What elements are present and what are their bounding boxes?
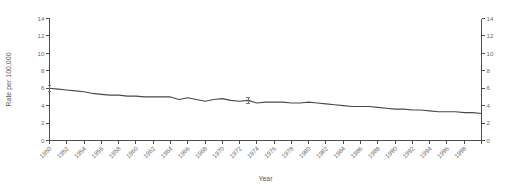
y-tick-label-right: 14 [487,15,494,22]
x-tick-label: 1986 [349,144,364,159]
y-tick-label-left: 4 [41,102,45,109]
x-tick-label: 1978 [280,144,295,159]
x-tick-label: 1984 [332,144,347,159]
x-tick-label: 1982 [315,144,330,159]
x-tick-label: 1964 [159,144,174,159]
x-tick-label: 1954 [73,144,88,159]
y-tick-label-right: 12 [487,32,494,39]
x-tick-label: 1990 [384,144,399,159]
x-tick-label: 1966 [176,144,191,159]
y-tick-label-right: 6 [487,84,491,91]
y-tick-label-right: 2 [487,119,491,126]
x-tick-label: 1992 [401,144,416,159]
y-tick-label-left: 6 [41,84,45,91]
x-tick-label: 1988 [366,144,381,159]
x-tick-label: 1972 [228,144,243,159]
x-axis-title: Year [258,175,273,182]
y-tick-label-left: 14 [38,15,45,22]
x-tick-label: 1958 [107,144,122,159]
x-tick-label: 1950 [38,144,53,159]
y-tick-label-right: 10 [487,50,494,57]
x-tick-label: 1998 [453,144,468,159]
x-tick-label: 1980 [297,144,312,159]
y-axis-title: Rate per 100,000 [5,52,13,106]
y-tick-label-left: 8 [41,67,45,74]
y-tick-label-left: 12 [38,32,45,39]
data-line-rate [50,88,482,113]
x-tick-label: 1970 [211,144,226,159]
x-tick-label: 1994 [418,144,433,159]
y-tick-label-left: 2 [41,119,45,126]
y-tick-label-left: 0 [41,137,45,144]
y-tick-label-right: 8 [487,67,491,74]
x-tick-label: 1952 [55,144,70,159]
y-tick-label-right: 0 [487,137,491,144]
x-tick-label: 1976 [263,144,278,159]
x-tick-label: 1960 [124,144,139,159]
y-tick-label-left: 10 [38,50,45,57]
chart-figure: 0022446688101012121414195019521954195619… [0,0,530,193]
x-tick-label: 1956 [90,144,105,159]
x-tick-label: 1962 [142,144,157,159]
x-tick-label: 1968 [194,144,209,159]
x-tick-label: 1996 [435,144,450,159]
x-tick-label: 1974 [245,144,260,159]
y-tick-label-right: 4 [487,102,491,109]
line-chart: 0022446688101012121414195019521954195619… [0,0,530,193]
